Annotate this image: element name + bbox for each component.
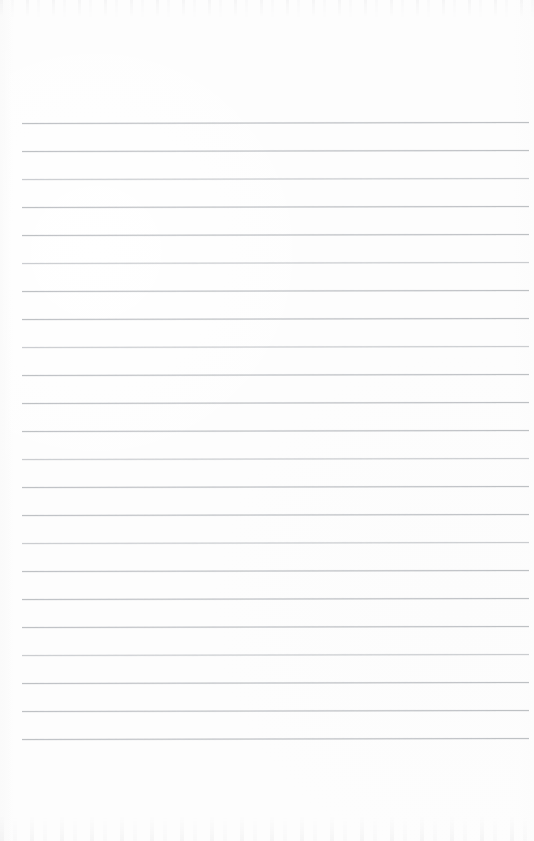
rule-line <box>22 262 529 264</box>
rule-line <box>22 346 529 348</box>
rule-line <box>22 738 529 740</box>
rule-line <box>22 682 529 684</box>
rule-line <box>22 318 529 320</box>
rule-line <box>22 542 529 544</box>
rule-line <box>22 458 529 460</box>
rule-line <box>22 122 529 124</box>
rule-line <box>22 178 529 180</box>
scanned-page <box>0 0 534 841</box>
ruled-lines-layer <box>0 0 534 841</box>
rule-line <box>22 598 529 600</box>
rule-line <box>22 570 529 572</box>
rule-line <box>22 486 529 488</box>
rule-line <box>22 654 529 656</box>
rule-line <box>22 514 529 516</box>
rule-line <box>22 150 529 152</box>
rule-line <box>22 430 529 432</box>
rule-line <box>22 710 529 712</box>
rule-line <box>22 374 529 376</box>
rule-line <box>22 290 529 292</box>
rule-line <box>22 626 529 628</box>
rule-line <box>22 402 529 404</box>
rule-line <box>22 206 529 208</box>
rule-line <box>22 234 529 236</box>
